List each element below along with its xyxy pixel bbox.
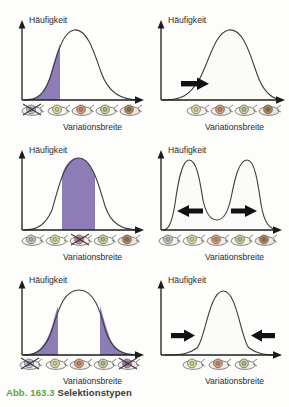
y-axis-label: Häufigkeit [29, 15, 68, 25]
figure-title: Selektionstypen [55, 387, 132, 398]
snail [235, 359, 257, 369]
snail-row [20, 358, 140, 369]
snail [209, 359, 231, 369]
distribution-curve [165, 291, 279, 355]
snail [207, 235, 229, 245]
panel-directional-after: Häufigkeit Variationsbreite [147, 8, 289, 133]
x-axis-label: Variationsbreite [63, 252, 122, 262]
figure-number: Abb. 163.3 [6, 387, 55, 398]
snail [46, 359, 68, 369]
shaded-region-center [62, 158, 95, 230]
y-axis-label: Häufigkeit [29, 275, 68, 285]
snail [70, 359, 92, 369]
y-axis-arrowhead [158, 280, 165, 289]
y-axis-arrowhead [19, 20, 26, 29]
distribution-curve [163, 30, 283, 100]
snail [22, 235, 44, 245]
distribution-curve [24, 30, 140, 100]
snail-eliminated [118, 358, 140, 369]
x-axis-label: Variationsbreite [63, 376, 122, 386]
snail [94, 359, 116, 369]
distribution-curve [163, 160, 279, 230]
figure-grid: Häufigkeit Variationsbreite [0, 0, 289, 380]
snail [183, 359, 205, 369]
x-axis-arrowhead [273, 226, 282, 234]
x-axis-arrowhead [276, 96, 285, 104]
snail [48, 105, 70, 115]
snail [159, 235, 181, 245]
y-axis-label: Häufigkeit [168, 145, 207, 155]
snail [118, 235, 140, 245]
snail [259, 105, 281, 115]
shaded-region-left-tail [24, 306, 58, 355]
arrow-left-inward-icon [251, 329, 275, 341]
x-axis-arrowhead [273, 351, 282, 359]
panel-disruptive-before: Häufigkeit Variationsbreite [2, 138, 144, 263]
distribution-curve [24, 290, 139, 355]
snail [235, 105, 257, 115]
snail [120, 105, 142, 115]
panel-stabilizing-after: Häufigkeit Variationsbreite [147, 268, 289, 386]
snail [96, 105, 118, 115]
panel-directional-before: Häufigkeit Variationsbreite [2, 8, 144, 133]
y-axis-arrowhead [158, 150, 165, 159]
y-axis-label: Häufigkeit [168, 15, 207, 25]
snail-row [22, 234, 140, 245]
x-axis-arrowhead [135, 226, 144, 234]
snail-row [22, 104, 142, 115]
shaded-region-left-tail [24, 44, 60, 100]
y-axis-arrowhead [19, 280, 26, 289]
snail [211, 105, 233, 115]
y-axis-label: Häufigkeit [29, 145, 68, 155]
snail [255, 235, 277, 245]
x-axis-label: Variationsbreite [205, 122, 264, 132]
y-axis-label: Häufigkeit [168, 275, 207, 285]
y-axis-arrowhead [19, 150, 26, 159]
snail-row [187, 105, 281, 115]
snail [72, 105, 94, 115]
x-axis-label: Variationsbreite [63, 122, 122, 132]
snail-eliminated [22, 104, 44, 115]
snail [46, 235, 68, 245]
snail [231, 235, 253, 245]
snail-row [183, 359, 257, 369]
x-axis-label: Variationsbreite [205, 252, 264, 262]
arrow-right-inward-icon [171, 329, 195, 341]
x-axis-arrowhead [135, 96, 144, 104]
snail [187, 105, 209, 115]
snail [183, 235, 205, 245]
snail-eliminated [70, 234, 92, 245]
snail-eliminated [20, 358, 42, 369]
axis-lines [22, 26, 139, 100]
x-axis-label: Variationsbreite [205, 376, 264, 386]
x-axis-arrowhead [135, 351, 144, 359]
snail [94, 235, 116, 245]
axis-lines [22, 286, 139, 355]
figure-caption: Abb. 163.3Selektionstypen [6, 387, 132, 398]
panel-stabilizing-before: Häufigkeit Variationsbreite [2, 268, 144, 386]
y-axis-arrowhead [158, 20, 165, 29]
snail-row [159, 235, 277, 245]
panel-disruptive-after: Häufigkeit Variationsbreite [147, 138, 289, 263]
